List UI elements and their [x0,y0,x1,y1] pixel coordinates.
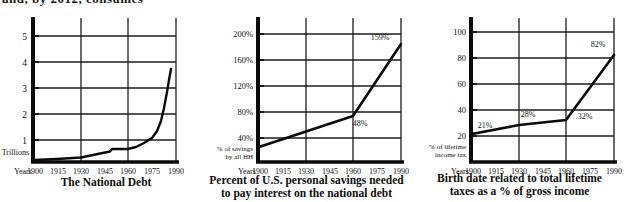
chart-lifetime-taxes: 100 80 60 40 20 % of lifetime income tax… [413,0,626,176]
svg-text:5: 5 [22,32,27,42]
y-axis-label: Trillions [2,148,29,157]
y-axis-label-line2: by all HH [225,153,253,161]
figure-national-debt: 5 4 3 2 1 Trillions Years 1900 1915 1930… [0,0,200,202]
svg-text:1: 1 [22,136,27,146]
figure-row: 5 4 3 2 1 Trillions Years 1900 1915 1930… [0,0,626,202]
caption-line: taxes as a % of gross income [413,185,626,198]
y-tick-labels: 100 80 60 40 20 [453,27,466,141]
svg-text:160%: 160% [233,55,253,65]
chart-national-debt: 5 4 3 2 1 Trillions Years 1900 1915 1930… [0,0,200,176]
svg-text:120%: 120% [233,81,253,91]
point-label-28: 28% [521,110,536,119]
data-line-lifetime-taxes [472,55,614,134]
caption-lifetime-taxes: Birth date related to total lifetime tax… [413,172,626,197]
gridlines-horizontal [33,36,176,140]
x-tick-labels: Years 1900 1915 1930 1945 1960 1975 1990 [14,167,184,176]
svg-text:40: 40 [458,105,467,115]
svg-text:1915: 1915 [50,167,66,176]
y-axis-label-line2: income tax [435,151,466,159]
svg-text:200%: 200% [233,29,253,39]
point-label-82: 82% [591,40,606,49]
point-label-32: 32% [578,112,593,121]
y-axis-label-line1: % of savings [217,145,253,153]
caption-line: The National Debt [6,176,206,189]
svg-text:1975: 1975 [144,167,160,176]
y-axis-label-line1: % of lifetime [429,143,466,151]
point-label-159: 159% [371,33,390,42]
figure-savings-interest: 200% 160% 120% 80% 40% % of savings by a… [200,0,413,202]
svg-text:100: 100 [453,27,466,37]
svg-text:40%: 40% [237,133,253,143]
figure-lifetime-taxes: 100 80 60 40 20 % of lifetime income tax… [413,0,626,202]
svg-text:1930: 1930 [73,167,89,176]
svg-text:1990: 1990 [168,167,184,176]
svg-text:80%: 80% [237,107,253,117]
svg-text:60: 60 [458,79,467,89]
gridlines-vertical [81,18,176,163]
svg-text:80: 80 [458,53,467,63]
y-tick-labels: 200% 160% 120% 80% 40% [233,29,253,143]
y-tick-labels: 5 4 3 2 1 [22,32,27,146]
caption-line: to pay interest on the national debt [200,187,413,200]
caption-national-debt: The National Debt [0,176,206,189]
svg-text:4: 4 [22,58,27,68]
caption-line: Birth date related to total lifetime [413,172,626,185]
svg-text:2: 2 [22,110,27,120]
svg-text:1900: 1900 [27,167,43,176]
chart-savings-interest: 200% 160% 120% 80% 40% % of savings by a… [200,0,413,176]
svg-text:3: 3 [22,84,27,94]
caption-savings-interest: Percent of U.S. personal savings needed … [200,174,413,199]
svg-text:20: 20 [458,131,467,141]
point-label-48: 48% [353,119,368,128]
svg-text:1945: 1945 [97,167,113,176]
caption-line: Percent of U.S. personal savings needed [200,174,413,187]
point-label-21: 21% [478,121,493,130]
svg-text:1960: 1960 [120,167,136,176]
